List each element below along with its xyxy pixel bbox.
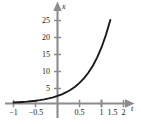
x-tick-label-neg05: −0.5 bbox=[29, 109, 44, 117]
exponential-growth-chart: 25 20 15 10 5 −1 −0.5 0.5 1 1.5 2 x t bbox=[0, 0, 141, 124]
y-tick-label-5: 5 bbox=[36, 85, 50, 93]
exponential-curve bbox=[14, 20, 111, 103]
x-tick-label-neg1: −1 bbox=[9, 109, 18, 117]
chart-canvas bbox=[0, 0, 141, 124]
y-axis-label: x bbox=[62, 3, 66, 11]
y-tick-label-20: 20 bbox=[36, 34, 50, 42]
y-tick-label-25: 25 bbox=[36, 17, 50, 25]
x-tick-label-15: 1.5 bbox=[108, 109, 118, 117]
x-tick-label-1: 1 bbox=[100, 109, 104, 117]
y-tick-label-10: 10 bbox=[36, 68, 50, 76]
x-axis-label: t bbox=[131, 105, 133, 113]
y-tick-label-15: 15 bbox=[36, 51, 50, 59]
x-tick-label-2: 2 bbox=[122, 109, 126, 117]
x-tick-label-05: 0.5 bbox=[75, 109, 85, 117]
